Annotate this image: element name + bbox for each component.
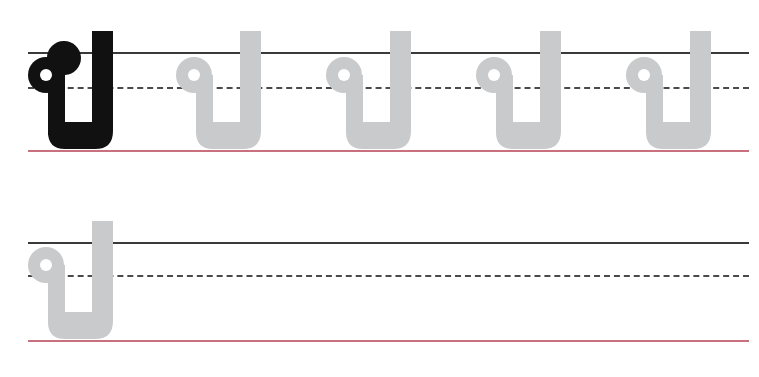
po-pla-glyph-icon bbox=[326, 31, 416, 151]
po-pla-glyph-icon bbox=[476, 31, 566, 151]
trace-glyph-po-pla: ป bbox=[28, 221, 118, 341]
trace-glyph-po-pla: ป bbox=[476, 31, 566, 151]
mid-dotted-guide-line bbox=[28, 275, 749, 277]
po-pla-glyph-icon bbox=[176, 31, 266, 151]
baseline-red-line bbox=[28, 340, 749, 342]
po-pla-glyph-icon bbox=[626, 31, 716, 151]
po-pla-glyph-icon bbox=[28, 31, 118, 151]
trace-glyph-po-pla: ป bbox=[326, 31, 416, 151]
trace-glyph-po-pla: ป bbox=[176, 31, 266, 151]
trace-glyph-po-pla: ป bbox=[626, 31, 716, 151]
top-guide-line bbox=[28, 242, 749, 244]
model-glyph-po-pla: ป bbox=[28, 31, 118, 151]
po-pla-glyph-icon bbox=[28, 221, 118, 341]
